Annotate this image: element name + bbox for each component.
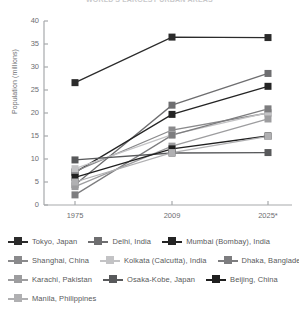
y-axis-tick-label: 35 — [17, 40, 39, 48]
legend-item-label: Kolkata (Calcutta), India — [124, 256, 207, 265]
legend-item[interactable]: Tokyo, Japan — [8, 237, 77, 246]
series-marker — [169, 102, 176, 109]
x-axis-tick-label: 2025* — [245, 211, 291, 220]
legend-item[interactable]: Mumbai (Bombay), India — [162, 237, 270, 246]
chart-figure: WORLD'S LARGEST URBAN AREAS Population (… — [0, 0, 299, 313]
series-marker — [169, 34, 176, 41]
series-line — [75, 37, 268, 83]
y-axis-tick-label: 15 — [17, 132, 39, 140]
data-series — [72, 34, 272, 199]
legend-marker-swatch — [109, 275, 117, 283]
legend-swatch-icon — [103, 275, 123, 284]
legend-item-label: Beijing, China — [230, 275, 278, 284]
legend-swatch-icon — [218, 256, 238, 265]
series-marker — [265, 133, 272, 140]
plot-area: Population (millions) 0510152025303540 1… — [0, 0, 299, 228]
series-marker — [169, 111, 176, 118]
legend-swatch-icon — [8, 294, 28, 303]
legend-item[interactable]: Osaka-Kobe, Japan — [103, 275, 195, 284]
series-marker — [265, 70, 272, 77]
y-axis-tick-label: 25 — [17, 86, 39, 94]
legend-item[interactable]: Shanghai, China — [8, 256, 89, 265]
legend-swatch-icon — [162, 237, 182, 246]
legend-marker-swatch — [14, 256, 22, 264]
legend-row: Manila, Philippines — [8, 289, 299, 308]
legend-item-label: Osaka-Kobe, Japan — [127, 275, 195, 284]
legend-item[interactable]: Dhaka, Bangladesh — [218, 256, 299, 265]
legend-item[interactable]: Karachi, Pakistan — [8, 275, 92, 284]
legend-marker-swatch — [168, 237, 176, 245]
y-axis-tick-label: 40 — [17, 17, 39, 25]
series-marker — [72, 179, 79, 186]
y-axis-tick-label: 5 — [17, 178, 39, 186]
legend-row: Karachi, PakistanOsaka-Kobe, JapanBeijin… — [8, 270, 299, 289]
x-axis-tick-label: 2009 — [149, 211, 195, 220]
legend-item-label: Dhaka, Bangladesh — [242, 256, 299, 265]
legend-swatch-icon — [8, 256, 28, 265]
x-axis-tick-label: 1975 — [52, 211, 98, 220]
legend-marker-swatch — [94, 237, 102, 245]
legend-item-label: Manila, Philippines — [32, 294, 96, 303]
series-marker — [72, 165, 79, 172]
series-marker — [265, 149, 272, 156]
legend-row: Shanghai, ChinaKolkata (Calcutta), India… — [8, 251, 299, 270]
legend-item[interactable]: Manila, Philippines — [8, 294, 96, 303]
legend-marker-swatch — [224, 256, 232, 264]
legend-swatch-icon — [8, 275, 28, 284]
series-line — [75, 113, 268, 171]
y-axis-tick-label: 20 — [17, 109, 39, 117]
chart-legend: Tokyo, JapanDelhi, IndiaMumbai (Bombay),… — [8, 232, 299, 308]
legend-item-label: Karachi, Pakistan — [32, 275, 92, 284]
y-axis-tick-label: 30 — [17, 63, 39, 71]
legend-item[interactable]: Beijing, China — [206, 275, 278, 284]
y-axis-tick-label: 0 — [17, 201, 39, 209]
series-marker — [72, 79, 79, 86]
legend-item-label: Mumbai (Bombay), India — [186, 237, 270, 246]
legend-swatch-icon — [206, 275, 226, 284]
series-marker — [265, 105, 272, 112]
legend-swatch-icon — [100, 256, 120, 265]
legend-swatch-icon — [8, 237, 28, 246]
legend-marker-swatch — [14, 294, 22, 302]
legend-marker-swatch — [212, 275, 220, 283]
chart-plot-svg — [0, 0, 299, 228]
legend-item-label: Shanghai, China — [32, 256, 89, 265]
legend-marker-swatch — [14, 275, 22, 283]
series-marker — [265, 115, 272, 122]
legend-item-label: Delhi, India — [112, 237, 151, 246]
legend-item[interactable]: Kolkata (Calcutta), India — [100, 256, 207, 265]
series-marker — [72, 191, 79, 198]
series-marker — [169, 149, 176, 156]
legend-swatch-icon — [88, 237, 108, 246]
series-marker — [72, 156, 79, 163]
series-marker — [265, 34, 272, 41]
series-marker — [169, 132, 176, 139]
legend-item-label: Tokyo, Japan — [32, 237, 77, 246]
y-axis-tick-label: 10 — [17, 155, 39, 163]
series-marker — [265, 83, 272, 90]
legend-marker-swatch — [106, 256, 114, 264]
legend-marker-swatch — [14, 237, 22, 245]
series-line — [75, 136, 268, 177]
legend-item[interactable]: Delhi, India — [88, 237, 151, 246]
legend-row: Tokyo, JapanDelhi, IndiaMumbai (Bombay),… — [8, 232, 299, 251]
